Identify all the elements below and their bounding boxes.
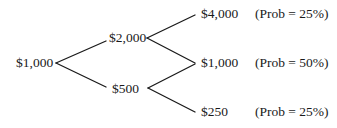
edge-root-down [56,63,106,87]
edge-down-down [148,88,195,112]
edge-root-up [56,41,106,63]
node-down-down: $250 [201,104,228,120]
prob-down-down: (Prob = 25%) [255,104,329,120]
node-up-up: $4,000 [201,6,238,22]
edge-down-up [148,64,195,88]
prob-up-up: (Prob = 25%) [255,6,329,22]
node-up: $2,000 [109,30,146,46]
edge-up-up [147,15,195,38]
edge-up-down [147,38,195,63]
binomial-tree-diagram: $1,000 $2,000 $500 $4,000 $1,000 $250 (P… [0,0,337,128]
node-middle: $1,000 [201,55,238,71]
prob-middle: (Prob = 50%) [255,55,329,71]
node-root: $1,000 [16,55,53,71]
node-down: $500 [112,81,139,97]
